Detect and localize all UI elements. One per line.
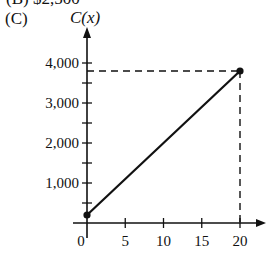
axes — [73, 27, 266, 238]
endpoint-dot — [236, 67, 243, 74]
data-series — [83, 67, 243, 218]
y-tick-label: 1,000 — [45, 175, 79, 191]
line-chart: 1,0002,0003,0004,00005101520 — [0, 0, 268, 253]
x-axis-arrow-icon — [256, 219, 266, 227]
y-tick-label: 4,000 — [45, 55, 79, 71]
y-tick-label: 3,000 — [45, 95, 79, 111]
x-tick-label: 15 — [194, 233, 209, 249]
series-line — [87, 71, 240, 215]
y-axis-arrow-icon — [83, 27, 91, 38]
tick-labels: 1,0002,0003,0004,00005101520 — [45, 55, 247, 249]
x-tick-label: 5 — [122, 233, 130, 249]
endpoint-dot — [83, 211, 90, 218]
x-tick-label: 0 — [77, 233, 85, 249]
y-tick-label: 2,000 — [45, 135, 79, 151]
x-tick-label: 10 — [156, 233, 171, 249]
x-tick-label: 20 — [233, 233, 248, 249]
